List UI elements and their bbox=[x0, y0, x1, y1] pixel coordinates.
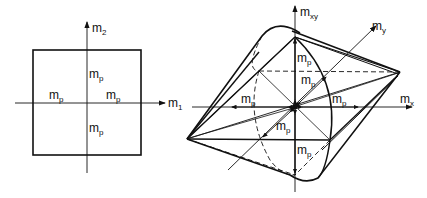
edge-top-left-dash bbox=[259, 37, 295, 71]
mp-label-right: mp bbox=[106, 88, 121, 104]
left-diagram: m2 m1 mp mp mp mp bbox=[15, 21, 183, 173]
mp-label-bottom: mp bbox=[89, 121, 104, 137]
m1-axis-label: m1 bbox=[168, 96, 183, 112]
mx-axis-label: mx bbox=[400, 92, 414, 108]
cone-outline-lower-right bbox=[330, 78, 395, 140]
cone-outline-lower bbox=[187, 72, 400, 181]
mp-label-lower: mp bbox=[297, 143, 312, 159]
mxy-axis-label: mxy bbox=[300, 5, 318, 21]
my-axis-label: my bbox=[372, 19, 386, 35]
mp-label-right: mp bbox=[332, 92, 347, 108]
yield-diagrams: m2 m1 mp mp mp mp bbox=[0, 0, 427, 198]
m2-axis-label: m2 bbox=[92, 21, 107, 37]
cone-right-inner bbox=[322, 76, 398, 150]
mp-label-upper-diag: mp bbox=[301, 73, 316, 89]
mp-label-left: mp bbox=[241, 92, 256, 108]
mp-label-lower-diag: mp bbox=[276, 119, 291, 135]
mp-label-top: mp bbox=[89, 67, 104, 83]
origin bbox=[293, 105, 298, 110]
mp-label-left: mp bbox=[49, 88, 64, 104]
right-diagram: mxy my mx mp mp mp mp mp mp bbox=[187, 5, 414, 192]
